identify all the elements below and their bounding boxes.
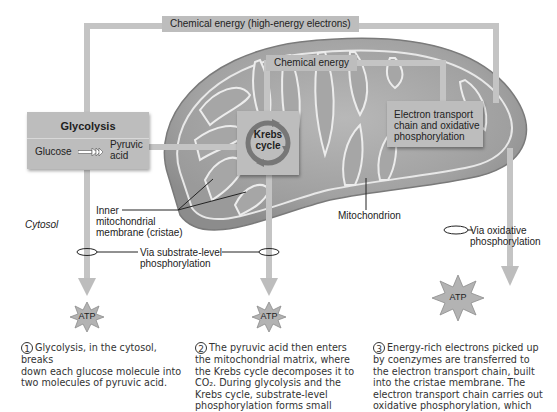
krebs-cycle-label: Krebs cycle [237,129,299,151]
electron-transport-chain-box: Electron transport chain and oxidative p… [387,101,483,147]
caption-2: 2The pyruvic acid then enters the mitoch… [195,342,375,412]
high-energy-electrons-label: Chemical energy (high-energy electrons) [162,16,359,32]
oxidative-phosphorylation-label: Via oxidative phosphorylation [470,225,541,247]
caption-3: 3Energy-rich electrons picked up by coen… [373,342,557,412]
glycolysis-title: Glycolysis [27,112,149,139]
step-number-3: 3 [373,342,385,354]
atp-label-2: ATP [257,311,281,321]
inner-membrane-label: Inner mitochondrial membrane (cristae) [96,205,183,238]
glycolysis-box: Glycolysis Glucose Pyruvic acid [27,112,149,169]
chemical-energy-label: Chemical energy [266,55,357,71]
caption-1: 1Glycolysis, in the cytosol, breaks down… [21,342,191,389]
glucose-label: Glucose [35,146,72,157]
krebs-cycle-box: Krebs cycle [237,111,299,175]
multi-step-arrow-icon [78,148,104,156]
step-number-1: 1 [21,342,33,354]
atp-label-3: ATP [446,292,470,302]
mitochondrion-label: Mitochondrion [338,210,401,221]
atp-stars [70,275,484,332]
substrate-level-label: Via substrate-level phosphorylation [140,247,222,269]
atp-label-1: ATP [75,311,99,321]
pyruvic-acid-label: Pyruvic acid [110,139,143,161]
etc-label: Electron transport chain and oxidative p… [394,109,480,142]
step-number-2: 2 [195,342,207,354]
cytosol-label: Cytosol [25,219,58,230]
